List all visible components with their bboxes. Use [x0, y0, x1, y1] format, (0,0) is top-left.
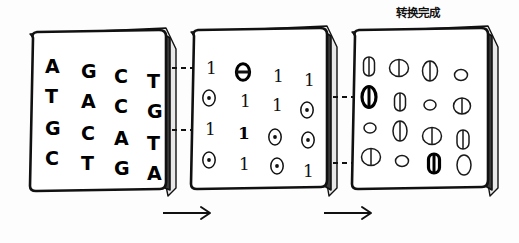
cell-item-highlighted [429, 154, 440, 173]
dna-cell: G [81, 60, 97, 82]
arrow-binary-to-cells [324, 207, 371, 219]
dna-cell: G [114, 157, 130, 179]
binary-cell: 1 [304, 70, 315, 90]
binary-cell: 1 [239, 154, 250, 174]
cell-item [362, 149, 381, 166]
cell-item [364, 57, 375, 76]
dna-sequence-panel[interactable]: A G C T T A C G G C A T C T G A [30, 28, 176, 196]
dna-cell: T [45, 85, 58, 107]
diagram-canvas: A G C T T A C G G C A T C T G A [0, 0, 519, 243]
dna-cell: A [114, 127, 129, 149]
cell-item [393, 121, 407, 141]
conversion-complete-caption: 转换完成 [396, 6, 441, 20]
dna-cell: C [114, 95, 128, 117]
cell-item [423, 128, 442, 145]
binary-cell: 1 [273, 66, 284, 86]
cell-item [457, 155, 471, 175]
dna-cell: T [81, 152, 94, 174]
cell-item [454, 98, 471, 114]
dna-cell: G [45, 117, 61, 139]
arrow-dna-to-binary [163, 207, 210, 219]
cell-item [395, 93, 406, 111]
cell-item [390, 60, 409, 77]
dna-cell: T [147, 132, 160, 154]
cell-item [423, 61, 438, 81]
cell-item [364, 123, 376, 133]
dna-cell: T [147, 70, 160, 92]
diagram-svg: A G C T T A C G G C A T C T G A [0, 0, 519, 243]
dna-cell: A [81, 90, 96, 112]
dna-cell: A [147, 162, 162, 184]
cell-item [396, 156, 409, 167]
dna-cell: A [45, 55, 60, 77]
dna-cell: C [114, 65, 128, 87]
dna-cell: G [147, 100, 163, 122]
binary-cell: 1 [206, 58, 217, 78]
dna-cell: C [81, 122, 95, 144]
cell-item-highlighted [362, 87, 376, 108]
binary-cell: 1 [205, 119, 216, 139]
binary-cell: 1 [303, 161, 314, 181]
binary-cell: 1 [272, 95, 283, 115]
cell-item [455, 70, 468, 81]
binary-cell: 1 [240, 91, 251, 111]
cell-shapes-panel[interactable] [352, 26, 498, 196]
binary-matrix-panel[interactable]: 1 1 1 1 1 1 [191, 26, 337, 196]
binary-cell-highlighted: 1 [238, 123, 250, 143]
dna-cell: C [45, 147, 59, 169]
cell-item [457, 130, 469, 149]
cell-item [424, 100, 436, 110]
